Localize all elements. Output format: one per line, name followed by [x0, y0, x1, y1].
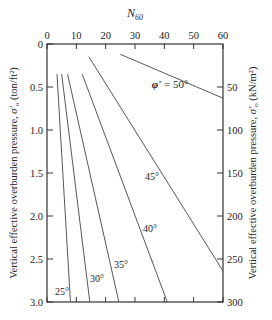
y-left-tick-label: 1.5 [30, 168, 43, 179]
series-line [57, 74, 70, 302]
y-axis-left-ticks: 00.51.01.52.02.53.0 [30, 39, 53, 308]
y-axis-right-label: Vertical effective overburden pressure, … [247, 66, 260, 279]
label-30: 30° [90, 273, 104, 284]
label-35: 35° [114, 259, 128, 270]
y-left-tick-label: 2.0 [30, 211, 43, 222]
series-lines [57, 54, 223, 302]
y-right-tick-label: 250 [227, 254, 243, 265]
y-axis-left-label: Vertical effective overburden pressure, … [8, 67, 21, 279]
y-left-tick-label: 0.5 [30, 82, 43, 93]
series-line [62, 74, 90, 302]
top-axis-title: N60 [126, 6, 143, 22]
series-line [68, 74, 119, 302]
y-axis-right-ticks: 50100150200250300 [217, 82, 243, 308]
y-right-tick-label: 50 [227, 82, 238, 93]
y-left-tick-label: 2.5 [30, 254, 43, 265]
y-left-tick-label: 3.0 [30, 297, 43, 308]
label-50: φ' = 50° [152, 78, 189, 90]
x-tick-label: 40 [159, 30, 170, 41]
x-axis-ticks: 0102030405060 [44, 30, 228, 302]
x-tick-label: 20 [100, 30, 111, 41]
x-tick-label: 10 [71, 30, 82, 41]
y-right-tick-label: 150 [227, 168, 243, 179]
x-tick-label: 30 [130, 30, 141, 41]
label-40: 40° [143, 223, 157, 234]
label-25: 25° [55, 286, 69, 297]
y-right-tick-label: 300 [227, 297, 243, 308]
x-tick-label: 0 [44, 30, 49, 41]
y-right-tick-label: 200 [227, 211, 243, 222]
y-left-tick-label: 0 [38, 39, 43, 50]
label-45: 45° [145, 171, 159, 182]
y-right-tick-label: 100 [227, 125, 243, 136]
x-tick-label: 60 [218, 30, 229, 41]
series-line [120, 54, 223, 98]
x-tick-label: 50 [188, 30, 199, 41]
chart: N60 0102030405060 00.51.01.52.02.53.0 50… [0, 0, 272, 320]
plot-frame [47, 44, 223, 302]
y-left-tick-label: 1.0 [30, 125, 43, 136]
